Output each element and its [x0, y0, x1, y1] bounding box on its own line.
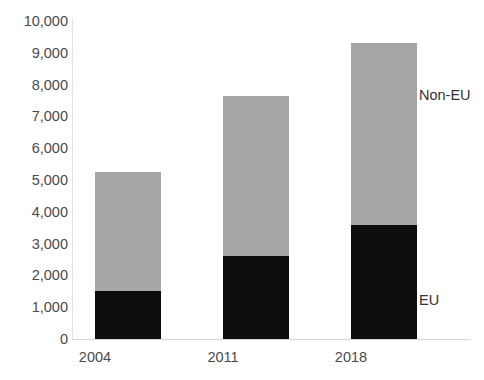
bar-group-2011[interactable] — [223, 96, 289, 339]
x-axis-line — [72, 339, 471, 340]
plot-area — [73, 21, 471, 339]
series-label-non-eu: Non-EU — [419, 87, 471, 103]
y-tick-label: 10,000 — [6, 14, 68, 29]
x-tick-label-2004: 2004 — [62, 349, 128, 365]
y-tick-label: 0 — [6, 332, 68, 347]
y-tick-label: 8,000 — [6, 78, 68, 93]
bar-group-2004[interactable] — [95, 172, 161, 339]
bar-chart: 10,000 9,000 8,000 7,000 6,000 5,000 4,0… — [0, 0, 484, 380]
x-tick-label-2018: 2018 — [318, 349, 384, 365]
bar-segment-eu[interactable] — [223, 256, 289, 339]
bar-group-2018[interactable] — [351, 43, 417, 339]
bar-segment-eu[interactable] — [351, 225, 417, 339]
y-tick-label: 1,000 — [6, 300, 68, 315]
bar-segment-non-eu[interactable] — [351, 43, 417, 224]
y-tick-label: 6,000 — [6, 141, 68, 156]
series-label-eu: EU — [419, 292, 439, 308]
bar-segment-non-eu[interactable] — [95, 172, 161, 291]
chart-title — [0, 0, 484, 2]
y-tick-label: 9,000 — [6, 46, 68, 61]
x-tick-label-2011: 2011 — [190, 349, 256, 365]
bar-segment-eu[interactable] — [95, 291, 161, 339]
y-tick-label: 5,000 — [6, 173, 68, 188]
y-tick-label: 2,000 — [6, 268, 68, 283]
y-tick-label: 3,000 — [6, 237, 68, 252]
bar-segment-non-eu[interactable] — [223, 96, 289, 257]
y-axis-tick-labels: 10,000 9,000 8,000 7,000 6,000 5,000 4,0… — [0, 0, 68, 380]
y-tick-label: 4,000 — [6, 205, 68, 220]
y-tick-label: 7,000 — [6, 109, 68, 124]
